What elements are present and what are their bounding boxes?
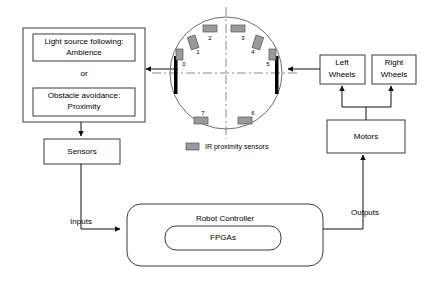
ir-sensor-0 [176,49,183,60]
right-wheels-label-line1: Right [385,58,404,67]
inputs-label: Inputs [70,217,92,226]
path-motors-to-right-wheels [366,86,391,107]
ir-sensor-7-number: 7 [201,110,204,117]
robot-wheel-left [174,56,178,94]
path-controller-to-motors [323,155,363,229]
light-source-following-label-line1: Light source following: [44,37,123,46]
ir-sensor-0-number: 0 [182,61,185,68]
ir-sensor-3 [231,25,245,32]
fpgas-label: FPGAs [210,233,236,242]
ir-sensor-6 [238,117,252,124]
ir-sensor-1-number: 1 [196,49,199,56]
motors-label: Motors [354,132,378,141]
light-source-following-label-line2: Ambience [66,48,102,57]
robot-controller-label: Robot Controller [196,214,254,223]
ir-sensor-5-number: 5 [266,61,269,68]
ir-legend-swatch-icon [186,143,199,150]
obstacle-avoidance-label-line2: Proximity [68,102,101,111]
left-wheels-label-line1: Left [335,58,348,67]
behavior-connector-label: or [80,69,87,78]
obstacle-avoidance-label-line1: Obstacle avoidance: [48,91,121,100]
sensors-label: Sensors [67,147,96,156]
ir-sensor-6-number: 6 [251,110,254,117]
robot-wheel-right [275,56,279,94]
ir-sensor-2-number: 2 [208,35,211,42]
ir-sensor-7 [194,117,208,124]
ir-sensor-3-number: 3 [241,35,244,42]
ir-sensor-4-number: 4 [251,49,254,56]
left-wheels-label-line2: Wheels [329,70,356,79]
ir-sensor-2 [203,25,217,32]
path-motors-to-left-wheels [342,86,366,120]
diagram-canvas: Light source following: Ambience or Obst… [0,0,433,283]
outputs-label: Outputs [351,208,379,217]
right-wheels-label-line2: Wheels [381,70,408,79]
ir-legend-label: IR proximity sensors [205,143,268,151]
ir-sensor-5 [269,49,276,60]
